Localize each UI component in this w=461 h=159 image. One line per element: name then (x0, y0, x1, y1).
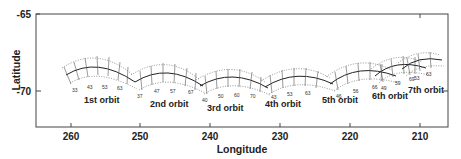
orbit-label: 1st orbit (84, 95, 120, 105)
orbit-label: 7th orbit (408, 85, 444, 95)
svg-text:33: 33 (72, 87, 78, 93)
xtick-label: 220 (342, 131, 359, 142)
svg-text:63: 63 (426, 71, 432, 77)
orbit-label: 3rd orbit (207, 103, 244, 113)
svg-text:63: 63 (117, 85, 123, 91)
orbit-3: 40 50 60 70 3rd orbit (196, 69, 270, 113)
svg-text:53: 53 (414, 75, 420, 81)
svg-text:63: 63 (305, 90, 311, 96)
orbit-label: 5th orbit (322, 95, 358, 105)
svg-text:57: 57 (170, 88, 176, 94)
y-axis-label: Latitude (10, 49, 22, 90)
svg-text:53: 53 (102, 84, 108, 90)
orbit-chart: -65 -70 260 250 240 230 220 210 Longitud… (0, 0, 461, 159)
xtick-label: 210 (412, 131, 429, 142)
orbit-label: 6th orbit (372, 91, 408, 101)
svg-text:53: 53 (287, 91, 293, 97)
svg-text:67: 67 (188, 89, 194, 95)
svg-text:66: 66 (372, 84, 378, 90)
svg-text:47: 47 (154, 88, 160, 94)
orbit-2: 37 47 57 67 2nd orbit (131, 63, 205, 109)
xtick-label: 240 (202, 131, 219, 142)
orbit-label: 2nd orbit (150, 99, 189, 109)
xtick-label: 250 (132, 131, 149, 142)
xtick-label: 230 (272, 131, 289, 142)
orbit-1: 33 43 53 63 1st orbit (62, 56, 137, 105)
svg-text:70: 70 (250, 93, 256, 99)
svg-text:43: 43 (87, 84, 93, 90)
svg-text:50: 50 (218, 93, 224, 99)
svg-text:37: 37 (137, 93, 143, 99)
orbit-label: 4th orbit (265, 99, 301, 109)
svg-text:59: 59 (395, 80, 401, 86)
xtick-label: 260 (63, 131, 80, 142)
x-axis-label: Longitude (217, 143, 268, 155)
svg-text:56: 56 (353, 88, 359, 94)
ytick-label: -65 (17, 9, 32, 20)
svg-text:60: 60 (234, 92, 240, 98)
